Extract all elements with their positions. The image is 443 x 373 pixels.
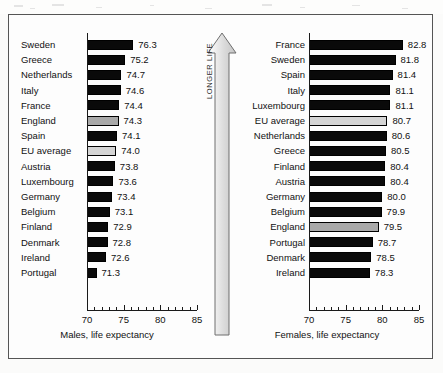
value-label: 82.8 xyxy=(408,37,427,52)
category-label: Italy xyxy=(288,83,305,98)
bar-row: EU average74.0 xyxy=(9,143,205,158)
value-label: 80.4 xyxy=(390,159,409,174)
x-axis-minor-tick xyxy=(146,307,147,310)
bar xyxy=(87,268,97,278)
bar-row: Luxembourg81.1 xyxy=(221,98,433,113)
category-label: Netherlands xyxy=(21,67,72,82)
bar xyxy=(309,237,373,247)
x-axis-major-tick xyxy=(309,305,310,310)
bar xyxy=(309,55,396,65)
value-label: 80.7 xyxy=(392,113,411,128)
x-axis-major-tick xyxy=(419,305,420,310)
bar-row: France82.8 xyxy=(221,37,433,52)
bar xyxy=(309,192,382,202)
x-axis-minor-tick xyxy=(412,307,413,310)
category-label: France xyxy=(21,98,51,113)
bar-row: Germany73.4 xyxy=(9,189,205,204)
x-axis-title: Females, life expectancy xyxy=(221,329,433,340)
x-axis-minor-tick xyxy=(331,307,332,310)
chart-panel-females: France82.8Sweden81.8Spain81.4Italy81.1Lu… xyxy=(221,15,433,360)
plot-area-females: France82.8Sweden81.8Spain81.4Italy81.1Lu… xyxy=(221,15,433,360)
x-axis-minor-tick xyxy=(131,307,132,310)
bar xyxy=(87,85,121,95)
x-axis-minor-tick xyxy=(353,307,354,310)
bar xyxy=(87,40,133,50)
bar xyxy=(87,207,110,217)
bar xyxy=(309,85,390,95)
bar xyxy=(87,116,119,126)
value-label: 80.6 xyxy=(392,128,411,143)
bar xyxy=(309,176,385,186)
category-label: England xyxy=(270,219,305,234)
x-axis-minor-tick xyxy=(175,307,176,310)
bar-row: Sweden81.8 xyxy=(221,52,433,67)
x-axis-minor-tick xyxy=(324,307,325,310)
value-label: 74.6 xyxy=(126,83,145,98)
category-label: Finland xyxy=(274,159,305,174)
bar xyxy=(309,100,390,110)
bar-row: Spain81.4 xyxy=(221,67,433,82)
bar-row: Germany80.0 xyxy=(221,189,433,204)
value-label: 80.5 xyxy=(391,143,410,158)
value-label: 75.2 xyxy=(130,52,149,67)
category-label: Belgium xyxy=(271,204,305,219)
value-label: 81.1 xyxy=(395,98,414,113)
category-label: Italy xyxy=(21,83,38,98)
bar xyxy=(309,207,382,217)
bar-row: Italy74.6 xyxy=(9,83,205,98)
bar-row: Sweden76.3 xyxy=(9,37,205,52)
value-label: 79.9 xyxy=(387,204,406,219)
value-label: 74.4 xyxy=(124,98,143,113)
bar-row: Finland72.9 xyxy=(9,219,205,234)
bar xyxy=(87,161,115,171)
category-label: Denmark xyxy=(266,250,305,265)
bar xyxy=(87,55,125,65)
value-label: 73.6 xyxy=(118,174,137,189)
bar xyxy=(87,192,112,202)
category-label: Belgium xyxy=(21,204,55,219)
bar-row: France74.4 xyxy=(9,98,205,113)
value-label: 78.7 xyxy=(378,235,397,250)
x-axis-tick-label: 70 xyxy=(295,314,323,325)
value-label: 79.5 xyxy=(384,219,403,234)
category-label: Spain xyxy=(281,67,305,82)
x-axis-major-tick xyxy=(382,305,383,310)
value-label: 78.3 xyxy=(375,265,394,280)
category-label: Germany xyxy=(266,189,305,204)
x-axis-minor-tick xyxy=(190,307,191,310)
bar-row: Greece80.5 xyxy=(221,143,433,158)
value-label: 81.8 xyxy=(401,52,420,67)
x-axis-minor-tick xyxy=(116,307,117,310)
category-label: England xyxy=(21,113,56,128)
value-label: 78.5 xyxy=(376,250,395,265)
x-axis-major-tick xyxy=(346,305,347,310)
bar-row: Ireland78.3 xyxy=(221,265,433,280)
value-label: 73.4 xyxy=(117,189,136,204)
value-label: 74.7 xyxy=(126,67,145,82)
x-axis-minor-tick xyxy=(338,307,339,310)
bar xyxy=(309,146,386,156)
bar-row: Luxembourg73.6 xyxy=(9,174,205,189)
bar-row: Austria73.8 xyxy=(9,159,205,174)
chart-panel-males: Sweden76.3Greece75.2Netherlands74.7Italy… xyxy=(9,15,205,360)
category-label: Netherlands xyxy=(254,128,305,143)
value-label: 76.3 xyxy=(138,37,157,52)
bar xyxy=(309,268,370,278)
bar-row: Spain74.1 xyxy=(9,128,205,143)
x-axis-minor-tick xyxy=(182,307,183,310)
bar xyxy=(87,222,108,232)
x-axis-major-tick xyxy=(160,305,161,310)
category-label: Luxembourg xyxy=(252,98,305,113)
arrow-label: LONGER LIFE xyxy=(205,65,214,99)
x-axis-minor-tick xyxy=(102,307,103,310)
category-label: Portugal xyxy=(270,235,305,250)
category-label: Ireland xyxy=(276,265,305,280)
category-label: EU average xyxy=(21,143,71,158)
x-axis-tick-label: 85 xyxy=(405,314,433,325)
x-axis-minor-tick xyxy=(397,307,398,310)
x-axis-title: Males, life expectancy xyxy=(9,329,205,340)
bar-row: Netherlands74.7 xyxy=(9,67,205,82)
bar-row: Denmark72.8 xyxy=(9,235,205,250)
value-label: 74.3 xyxy=(124,113,143,128)
bar xyxy=(87,176,113,186)
